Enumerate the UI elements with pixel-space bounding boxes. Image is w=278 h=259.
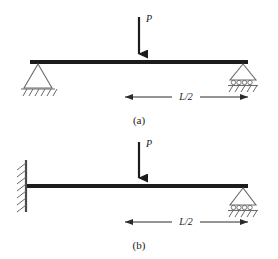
- roller-hatching: [229, 86, 257, 93]
- panel-b: P: [17, 138, 258, 252]
- roller-wheels: [231, 205, 252, 209]
- pin-hatching: [23, 89, 57, 96]
- beam-diagram-figure: P: [0, 0, 278, 259]
- caption-b: (b): [133, 239, 146, 252]
- pin-support-a: [21, 64, 57, 96]
- load-label-p-b: P: [145, 138, 152, 149]
- dimension-l-over-2-a: L/2: [125, 91, 248, 102]
- roller-support-b: [228, 188, 258, 217]
- roller-wheels: [231, 80, 252, 84]
- fixed-support-b: [17, 160, 26, 212]
- roller-triangle: [230, 64, 256, 80]
- load-label-p-a: P: [145, 13, 152, 24]
- dimension-label-a: L/2: [178, 91, 192, 102]
- caption-a: (a): [133, 114, 146, 127]
- fixed-wall-hatching: [17, 163, 26, 212]
- roller-support-a: [228, 64, 258, 92]
- dimension-label-b: L/2: [178, 216, 192, 227]
- panel-a: P: [21, 13, 258, 127]
- roller-hatching: [229, 211, 257, 218]
- dimension-l-over-2-b: L/2: [125, 216, 248, 227]
- pin-triangle: [24, 64, 52, 88]
- beam-diagram-svg: P: [0, 0, 278, 259]
- roller-triangle: [230, 188, 256, 205]
